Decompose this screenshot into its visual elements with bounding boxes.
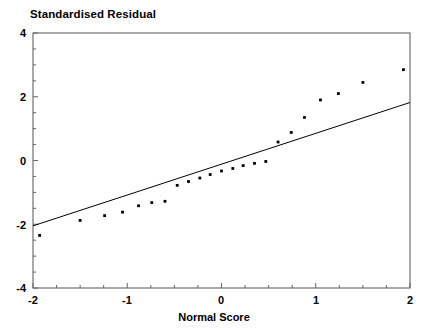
data-point <box>209 173 212 176</box>
data-points <box>38 68 405 237</box>
axis-ticks <box>33 33 410 288</box>
data-point <box>38 234 41 237</box>
data-point <box>337 92 340 95</box>
data-point <box>319 99 322 102</box>
data-point <box>198 177 201 180</box>
plot-frame <box>33 33 410 288</box>
data-point <box>402 68 405 71</box>
data-point <box>164 200 167 203</box>
data-point <box>303 116 306 119</box>
data-point <box>231 167 234 170</box>
data-point <box>187 180 190 183</box>
data-point <box>264 160 267 163</box>
data-point <box>176 184 179 187</box>
plot-area <box>0 0 428 330</box>
data-point <box>361 81 364 84</box>
data-point <box>253 162 256 165</box>
data-point <box>137 204 140 207</box>
data-point <box>220 170 223 173</box>
data-point <box>242 164 245 167</box>
data-point <box>103 214 106 217</box>
data-point <box>121 211 124 214</box>
data-point <box>290 131 293 134</box>
data-point <box>277 141 280 144</box>
chart-container: Standardised Residual Normal Score 4 2 0… <box>0 0 428 330</box>
data-point <box>79 219 82 222</box>
reference-line <box>33 102 410 225</box>
data-point <box>150 201 153 204</box>
